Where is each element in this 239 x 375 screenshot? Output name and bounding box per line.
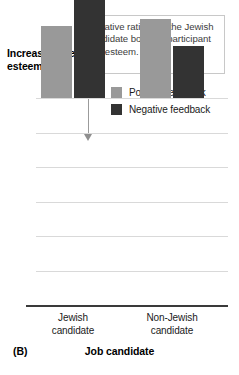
bar	[173, 46, 204, 98]
bar	[140, 19, 171, 98]
bar	[41, 26, 72, 98]
bar-chart-figure: Increase in self-esteem Negative ratings…	[0, 0, 239, 375]
gridline	[36, 271, 228, 272]
bar	[74, 0, 105, 98]
legend-swatch-positive-feedback	[111, 87, 122, 98]
x-category-label: Jewishcandidate	[21, 312, 125, 337]
gridline	[36, 236, 228, 237]
x-axis-line	[26, 305, 228, 307]
gridline	[36, 202, 228, 203]
gridline	[36, 98, 228, 99]
gridline	[36, 133, 228, 134]
x-category-label: Non-Jewishcandidate	[120, 312, 224, 337]
x-axis-title: Job candidate	[0, 345, 239, 357]
plot-area: 0123456	[36, 98, 228, 305]
gridline	[36, 167, 228, 168]
